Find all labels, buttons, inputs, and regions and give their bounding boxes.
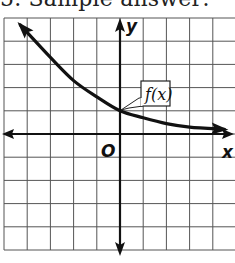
x-axis <box>2 129 234 139</box>
y-axis <box>115 18 125 256</box>
x-axis-label: x <box>221 142 234 162</box>
origin-label: O <box>101 141 115 161</box>
function-label-callout: f(x) <box>121 81 172 110</box>
coordinate-grid-chart: f(x) y x O <box>0 0 235 263</box>
function-label: f(x) <box>144 85 172 104</box>
y-axis-label: y <box>126 16 138 36</box>
